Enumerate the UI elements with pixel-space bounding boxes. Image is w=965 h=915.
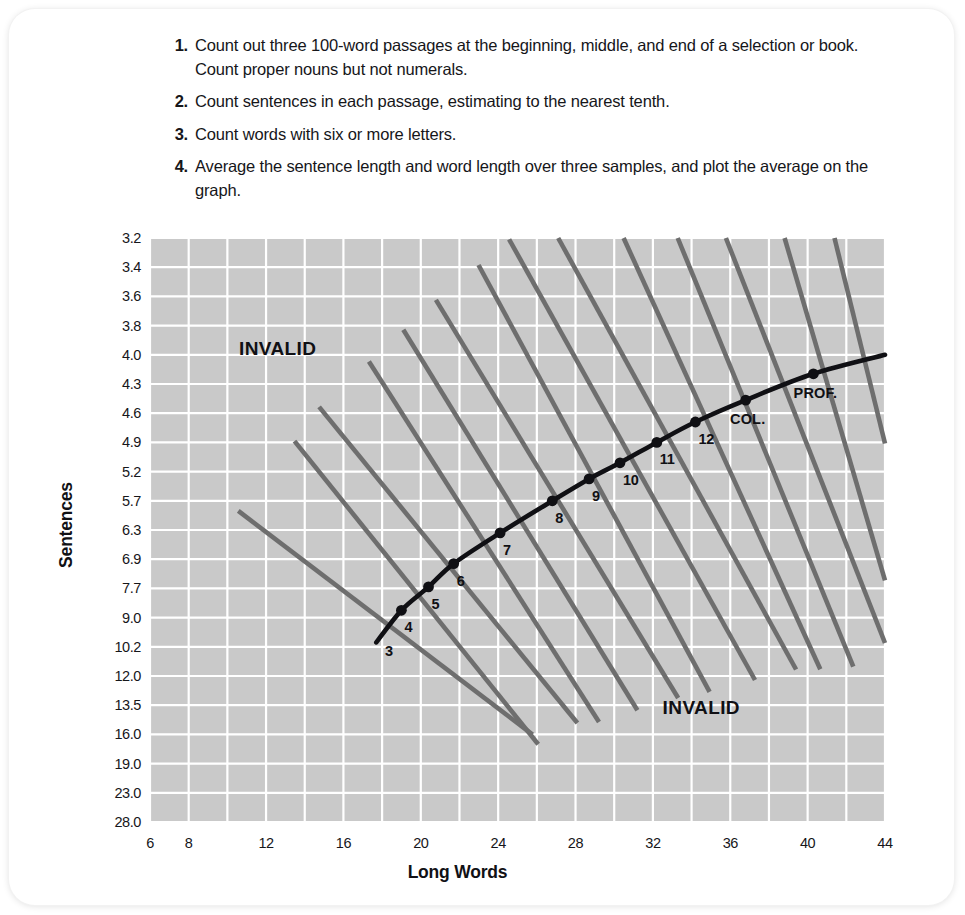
- list-item-number: 4.: [166, 155, 195, 178]
- list-item-number: 1.: [166, 34, 195, 57]
- list-item: 1. Count out three 100-word passages at …: [166, 34, 878, 81]
- readability-graph-page: 1. Count out three 100-word passages at …: [0, 0, 965, 915]
- list-item-text: Count sentences in each passage, estimat…: [195, 90, 670, 114]
- list-item-text: Count out three 100-word passages at the…: [195, 34, 878, 81]
- list-item: 3. Count words with six or more letters.: [166, 123, 878, 147]
- list-item-text: Count words with six or more letters.: [195, 123, 456, 147]
- list-item-number: 2.: [166, 90, 195, 113]
- instruction-list: 1. Count out three 100-word passages at …: [166, 34, 878, 211]
- list-item-text: Average the sentence length and word len…: [195, 155, 878, 202]
- list-item: 4. Average the sentence length and word …: [166, 155, 878, 202]
- list-item-number: 3.: [166, 123, 195, 146]
- list-item: 2. Count sentences in each passage, esti…: [166, 90, 878, 114]
